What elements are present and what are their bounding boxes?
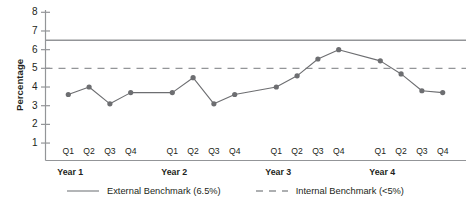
data-point [170,90,175,95]
data-point [87,84,92,89]
data-point [315,56,320,61]
legend-solid-line-icon [66,187,100,195]
data-point [232,92,237,97]
data-point [378,58,383,63]
legend-item-external-benchmark: External Benchmark (6.5%) [66,186,221,196]
data-point [191,75,196,80]
data-point [419,88,424,93]
legend-dashed-line-icon [255,187,289,195]
data-point [211,101,216,106]
data-point [128,90,133,95]
legend-item-internal-benchmark: Internal Benchmark (<5%) [255,186,404,196]
data-point [399,71,404,76]
legend-label-internal-benchmark: Internal Benchmark (<5%) [296,186,404,196]
series-line [68,50,442,104]
data-point [295,73,300,78]
data-point [107,101,112,106]
data-point [440,90,445,95]
data-point [336,47,341,52]
plot-area [0,0,470,215]
data-point [274,84,279,89]
chart-legend: External Benchmark (6.5%) Internal Bench… [0,186,470,196]
legend-label-external-benchmark: External Benchmark (6.5%) [107,186,221,196]
chart-container: Percentage 12345678 Q1Q2Q3Q4Q1Q2Q3Q4Q1Q2… [0,0,470,215]
data-point [66,92,71,97]
